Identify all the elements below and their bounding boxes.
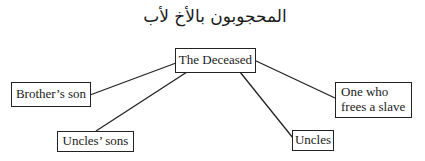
node-uncles: Uncles [292, 130, 334, 151]
node-uncles-label: Uncles [295, 133, 331, 148]
edge-deceased-freer [254, 60, 335, 98]
node-deceased-label: The Deceased [179, 53, 252, 68]
edge-deceased-brothers-son [90, 63, 176, 95]
node-freer: One who frees a slave [335, 82, 412, 118]
node-uncles-sons: Uncles’ sons [57, 131, 134, 152]
edge-deceased-uncles-sons [96, 72, 187, 131]
node-brothers-son: Brother’s son [11, 82, 91, 107]
diagram-title: المحجوبون بالأخ لأب [140, 6, 290, 26]
node-uncles-sons-label: Uncles’ sons [63, 134, 129, 149]
node-deceased: The Deceased [175, 48, 256, 73]
node-freer-label-line1: One who [341, 85, 388, 100]
node-brothers-son-label: Brother’s son [16, 87, 86, 102]
edge-deceased-uncles [240, 72, 293, 138]
node-freer-label-line2: frees a slave [341, 100, 405, 115]
